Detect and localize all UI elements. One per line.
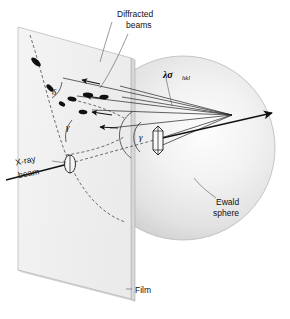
- film-plane-icon: [18, 27, 135, 301]
- ewald-sphere-line1: Ewald: [216, 197, 239, 207]
- ewald-sphere-line2: sphere: [213, 208, 239, 218]
- label-ewald-sphere: Ewald sphere: [213, 197, 239, 218]
- lambda-sigma-symbol: λσ: [162, 69, 173, 80]
- film-label: Film: [135, 285, 151, 295]
- ewald-sphere-figure: Diffracted beams Ewald sphere X-ray beam…: [0, 0, 290, 319]
- angle-gamma-sphere-symbol: γ: [139, 132, 143, 142]
- label-diffracted-beams: Diffracted beams: [117, 9, 153, 30]
- crystal-icon: [153, 126, 163, 155]
- diffracted-beams-line2: beams: [126, 20, 152, 30]
- diagram-canvas: Diffracted beams Ewald sphere X-ray beam…: [0, 0, 290, 319]
- label-angle-gamma-film: γ: [66, 122, 70, 132]
- beam-entry-marker: [65, 155, 76, 173]
- label-film: Film: [135, 285, 151, 295]
- label-angle-gamma-sphere: γ: [139, 132, 143, 142]
- lambda-sigma-subscript: hkl: [182, 74, 190, 81]
- diffracted-beams-line1: Diffracted: [117, 9, 153, 19]
- angle-gamma-film-symbol: γ: [66, 122, 70, 132]
